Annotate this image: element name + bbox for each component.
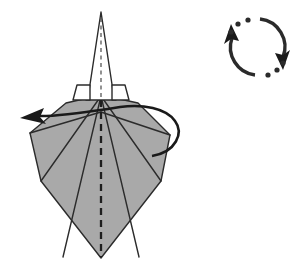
- rotate-dot-4: [280, 60, 285, 65]
- rotate-arc-left: [230, 38, 255, 75]
- rotate-dot-5: [274, 67, 279, 72]
- right-base-tab: [112, 85, 129, 100]
- left-base-tab: [73, 85, 90, 100]
- origami-diagram-svg: [0, 0, 305, 273]
- rotate-arrowhead-lower-right-icon: [275, 50, 290, 70]
- rotate-dot-2: [235, 21, 240, 26]
- rotate-dot-1: [245, 17, 250, 22]
- rotate-turn-over-symbol: [224, 17, 290, 77]
- rotate-dot-6: [265, 72, 270, 77]
- rotate-dot-3: [228, 29, 233, 34]
- diagram-canvas: [0, 0, 305, 273]
- rotate-arc-right: [260, 19, 285, 57]
